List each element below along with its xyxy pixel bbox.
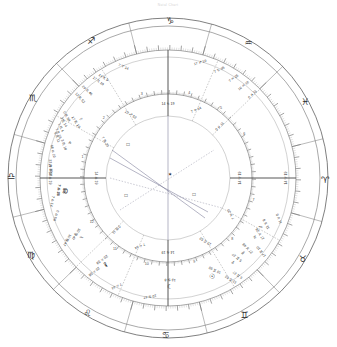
outer-degree-label: 7 ♌ 44 (111, 282, 123, 290)
outer-degree-label: 29 ♏ 46 (81, 85, 93, 97)
outer-degree-label: 60 ♎ 10 (50, 145, 57, 158)
planet-glyph-northnode: ☊ (61, 188, 69, 195)
title-layer: Natal Chart (158, 3, 179, 7)
outer-degree-label: 11 ♉ 8 (275, 213, 282, 224)
house-cusp-degree: 7 ♏ 23 (101, 136, 110, 148)
sign-glyph-aquarius: ♒ (244, 38, 252, 48)
planet-glyphs-layer: ☉18 ♊ 58☽13 ♋ 8☿27 ♉ 48♀5 ♊ 27♂11 ♉ 8♃17… (56, 111, 271, 290)
house-number: 7 (252, 198, 254, 202)
sign-glyph-sagittarius: ♐ (87, 36, 95, 46)
aspect-line (112, 150, 205, 218)
house-number: 6 (243, 132, 245, 136)
house-cusp-degree: 14 ♎ 19 (94, 172, 98, 185)
aspect-symbol-square: □ (192, 191, 195, 197)
outer-degree-label: 10 ♍ 47 (62, 234, 72, 247)
house-number: 3 (141, 92, 143, 96)
house-cusp-degree: 0 ♓ 11 (215, 121, 225, 131)
natal-chart-wheel: Natal Chart ♈♉♊♋♌♍♎♏♐♑♒♓ ☉18 ♊ 58☽13 ♋ 8… (0, 0, 337, 347)
aspect-symbol-square: □ (124, 192, 127, 198)
outer-degree-label: 7 ♑ 35 (214, 66, 226, 74)
house-number: 2 (103, 116, 105, 120)
planet-jupiter: ♃17 ♉ 28 (248, 227, 265, 245)
house-number: 4 (188, 91, 190, 95)
planet-saturn: ♄10 ♍ 47 (71, 227, 88, 245)
house-number: 8 (231, 237, 233, 241)
planet-northnode: ☊7 ♎ 18 (56, 184, 69, 197)
house-cusp-degree: 12 ♊ 52 (199, 236, 212, 246)
sign-glyph-taurus: ♉ (299, 254, 307, 264)
outer-degree-label: 10 ♋ 47 (143, 294, 156, 300)
aspect-symbols-layer: □□□✶ (124, 141, 195, 198)
house-cusp-degree: 7 ♉ 23 (226, 208, 235, 220)
sign-glyph-libra: ♎ (7, 171, 15, 181)
house-number: 5 (220, 106, 222, 110)
house-cusp-degree: 14 ♋ 19 (162, 250, 175, 254)
sign-glyph-pisces: ♓ (301, 97, 309, 107)
house-number: 12 (90, 220, 94, 224)
outer-degree-label: 7 ♎ 14 (49, 196, 55, 208)
planet-pluto: ♇17 ♏ 19 (70, 111, 87, 129)
planet-moon: ☽13 ♋ 8 (164, 278, 175, 290)
house-cusp-degree: 0 ♍ 11 (111, 224, 121, 234)
outer-degree-label: 0 ♓ 11 (247, 89, 257, 99)
house-number: 1 (82, 155, 84, 159)
outer-degree-label: 20 ♌ 58 (88, 266, 101, 277)
outer-degree-label: 7 ♒ 25 (228, 74, 239, 83)
planet-sun: ☉18 ♊ 58 (205, 265, 222, 282)
planet-degree-northnode: 7 ♎ 18 (56, 184, 61, 196)
page-title: Natal Chart (158, 3, 179, 7)
planet-glyph-moon: ☽ (167, 283, 173, 290)
house-cusp-degree: 7 ♌ 14 (134, 242, 146, 250)
sign-glyph-virgo: ♍ (27, 250, 35, 260)
house-number: 10 (145, 262, 149, 266)
sign-glyph-aries: ♈ (321, 175, 330, 185)
sign-glyph-scorpio: ♏ (29, 93, 37, 103)
house-number: 9 (193, 260, 195, 264)
outer-degree-label: 10 ♒ 10 (237, 80, 249, 91)
outer-degree-label: 17 ♊ 10 (256, 245, 267, 258)
sign-glyph-gemini: ♊ (241, 310, 249, 320)
aspect-lines-layer (110, 116, 222, 240)
outer-degree-label: 14 ♈ 19 (284, 172, 288, 185)
outer-degree-label: 12 ♏ 52 (74, 92, 86, 104)
outer-degree-label: 0 ♎ 58 (52, 210, 59, 222)
house-number: 11 (113, 247, 117, 251)
aspect-symbol-square: □ (126, 141, 129, 147)
planet-glyph-neptune: ♆ (66, 139, 74, 146)
aspect-symbol-sextile: ✶ (168, 171, 172, 177)
planet-degree-moon: 13 ♋ 8 (164, 278, 175, 282)
house-cusp-degree: 12 ♐ 52 (124, 110, 137, 120)
house-cusp-degree: 7 ♒ 14 (190, 106, 202, 114)
house-cusp-degree: 14 ♑ 19 (162, 102, 175, 106)
chart-svg: Natal Chart ♈♉♊♋♌♍♎♏♐♑♒♓ ☉18 ♊ 58☽13 ♋ 8… (0, 0, 337, 347)
outer-degree-label: 5 ♊ 27 (232, 270, 243, 280)
aspect-line (120, 150, 214, 210)
sign-glyph-cancer: ♋ (162, 330, 170, 340)
sign-glyph-capricorn: ♑ (166, 16, 174, 26)
planet-neptune: ♆3 ♏ 14 (60, 136, 75, 151)
house-cusp-degree: 14 ♈ 19 (238, 172, 242, 185)
sign-glyph-leo: ♌ (84, 308, 92, 318)
